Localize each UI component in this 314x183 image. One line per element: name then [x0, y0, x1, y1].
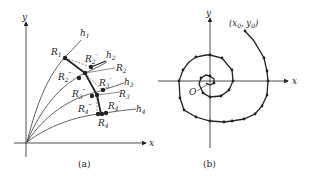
- caption-b: (b): [203, 159, 216, 169]
- curve-r3-guide: [97, 92, 120, 95]
- figure-canvas: y x h1 h2 h3 h4 R1 R2′ R2 R2″ R3′ R3 R3″…: [0, 0, 314, 183]
- point-r2prime: [89, 65, 93, 69]
- b-x-label: x: [292, 76, 297, 86]
- point-r1: [63, 56, 67, 60]
- start-point-label: (x0, y0): [229, 18, 258, 29]
- figure-a: y x h1 h2 h3 h4 R1 R2′ R2 R2″ R3′ R3 R3″…: [14, 12, 154, 169]
- label-r4prime: R4′: [107, 100, 121, 112]
- label-r4: R4: [97, 118, 109, 129]
- figure-b: y x O (x0, y0) (b): [158, 8, 297, 169]
- point-r3dprime: [90, 94, 94, 98]
- label-r2: R2: [115, 63, 127, 74]
- label-r2prime: R2′: [84, 53, 98, 65]
- label-r2dprime: R2″: [57, 71, 72, 83]
- label-h3: h3: [124, 77, 134, 88]
- origin-label: O: [189, 87, 197, 97]
- label-h1: h1: [80, 28, 90, 39]
- point-r4prime: [104, 111, 108, 115]
- spiral-trajectory: [179, 31, 268, 122]
- label-r1: R1: [50, 47, 62, 58]
- origin-pointer: [197, 84, 208, 91]
- point-r4b: [100, 112, 104, 116]
- label-h2: h2: [106, 50, 116, 61]
- a-y-label: y: [21, 12, 28, 22]
- caption-a: (a): [78, 159, 90, 169]
- label-r4dprime: R4″: [77, 103, 92, 115]
- b-y-label: y: [205, 8, 212, 18]
- point-r2dprime: [77, 76, 81, 80]
- a-x-label: x: [149, 138, 154, 148]
- label-r3: R3: [118, 89, 130, 100]
- curve-r2-guide: [85, 68, 115, 73]
- point-r3prime: [101, 88, 105, 92]
- label-h4: h4: [136, 104, 146, 115]
- point-r2: [83, 71, 87, 75]
- point-r3: [95, 93, 99, 97]
- label-r3prime: R3′: [98, 77, 112, 89]
- label-r3dprime: R3″: [71, 88, 86, 100]
- point-r4: [96, 112, 100, 116]
